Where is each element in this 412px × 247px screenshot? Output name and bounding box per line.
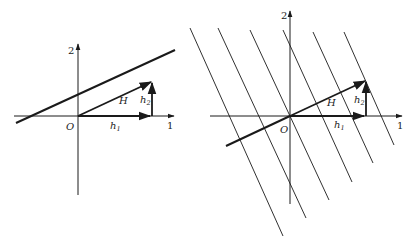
parallel-line <box>190 28 283 236</box>
left-h1-label: h1 <box>110 120 121 133</box>
right-origin-label: O <box>280 124 288 135</box>
right-x-axis-label: 1 <box>397 120 403 131</box>
diagram-canvas: 2 1 O H h1 h2 2 1 O H h1 h2 <box>0 0 412 247</box>
parallel-line <box>344 32 394 145</box>
left-H-label: H <box>118 95 128 106</box>
parallel-line <box>283 30 352 182</box>
left-y-axis-label: 2 <box>68 45 74 56</box>
right-h1-label: h1 <box>334 119 345 132</box>
left-origin-label: O <box>66 121 74 132</box>
left-x-axis-label: 1 <box>167 120 173 131</box>
left-h2-label: h2 <box>140 94 151 107</box>
parallel-line <box>313 32 373 163</box>
right-parallel-lines <box>190 28 394 236</box>
left-panel: 2 1 O H h1 h2 <box>14 44 175 195</box>
right-panel: 2 1 O H h1 h2 <box>190 10 403 236</box>
right-h2-label: h2 <box>354 94 365 107</box>
right-y-axis-label: 2 <box>281 10 287 21</box>
right-H-label: H <box>326 97 336 108</box>
